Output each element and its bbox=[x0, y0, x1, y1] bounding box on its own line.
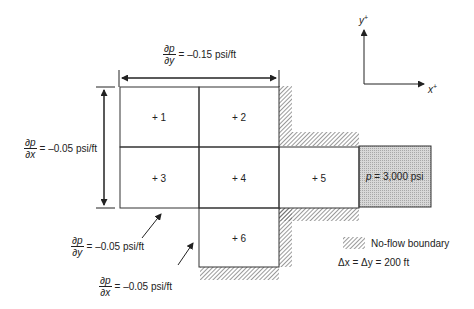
cell-4-label: + 4 bbox=[232, 173, 246, 184]
gradient-top: ∂p∂y = –0.15 psi/ft bbox=[163, 43, 236, 66]
legend-spacing-label: Δx = Δy = 200 ft bbox=[338, 257, 409, 268]
gradient-bottom-y: ∂p∂y = –0.05 psi/ft bbox=[71, 235, 144, 258]
x-axis-label: x+ bbox=[428, 81, 437, 95]
y-axis-label: y+ bbox=[359, 12, 368, 26]
cell-5-label: + 5 bbox=[312, 173, 326, 184]
pointer-arrow-dpdy bbox=[142, 214, 161, 238]
cell-3-label: + 3 bbox=[152, 173, 166, 184]
constant-pressure-label: p = 3,000 psi bbox=[366, 171, 424, 182]
gradient-left: ∂p∂x = –0.05 psi/ft bbox=[24, 137, 97, 160]
cell-1-label: + 1 bbox=[152, 112, 166, 123]
cell-6-label: + 6 bbox=[232, 233, 246, 244]
legend-no-flow-label: No-flow boundary bbox=[371, 238, 449, 249]
legend-hatch-swatch bbox=[343, 237, 365, 249]
top-dimension-arrow bbox=[119, 70, 279, 87]
gradient-bottom-x: ∂p∂x = –0.05 psi/ft bbox=[99, 275, 172, 298]
pointer-arrow-dpdx bbox=[178, 243, 193, 265]
left-dimension-arrow bbox=[96, 87, 115, 208]
cell-2-label: + 2 bbox=[232, 112, 246, 123]
axes bbox=[364, 30, 424, 84]
